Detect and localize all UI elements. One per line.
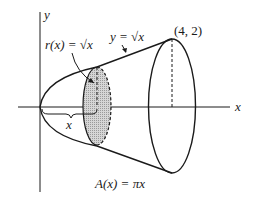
x-axis-label: x <box>235 100 241 113</box>
y-axis-label: y <box>44 8 50 21</box>
area-label: A(x) = πx <box>95 177 145 190</box>
radius-label: r(x) = √x <box>45 38 93 51</box>
position-label: x <box>66 118 72 131</box>
curve-pointer-arrowhead <box>122 48 127 53</box>
endpoint-label: (4, 2) <box>174 24 202 37</box>
curve-label: y = √x <box>110 30 144 43</box>
